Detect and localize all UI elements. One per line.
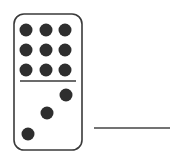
domino-diagram [0,0,190,162]
pip-dot [40,44,53,57]
pip-dot [60,89,73,102]
pip-dot [20,24,33,37]
pip-dot [40,64,53,77]
pip-dot [22,128,35,141]
pip-dot [59,64,72,77]
pip-dot [20,44,33,57]
pip-dot [59,24,72,37]
pip-dot [40,24,53,37]
pip-dot [41,107,54,120]
pip-dot [59,44,72,57]
top-half-pips [20,24,72,77]
pip-dot [20,64,33,77]
